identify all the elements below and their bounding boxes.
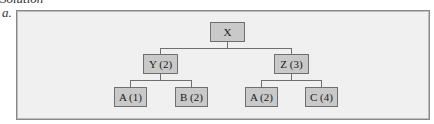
connector-to-c4 (321, 80, 322, 87)
connector-z-bar (261, 80, 322, 81)
part-label: a. (2, 5, 12, 21)
node-z: Z (3) (274, 54, 309, 74)
connector-to-b2 (191, 80, 192, 87)
node-y: Y (2) (143, 54, 178, 74)
connector-to-a2 (261, 80, 262, 87)
connector-to-a1 (130, 80, 131, 87)
node-a2: A (2) (245, 87, 278, 107)
node-b2: B (2) (175, 87, 208, 107)
connector-y-bar (130, 80, 192, 81)
connector-level1-bar (160, 48, 292, 49)
node-root-x: X (210, 22, 245, 42)
node-c4: C (4) (305, 87, 338, 107)
node-a1: A (1) (114, 87, 147, 107)
